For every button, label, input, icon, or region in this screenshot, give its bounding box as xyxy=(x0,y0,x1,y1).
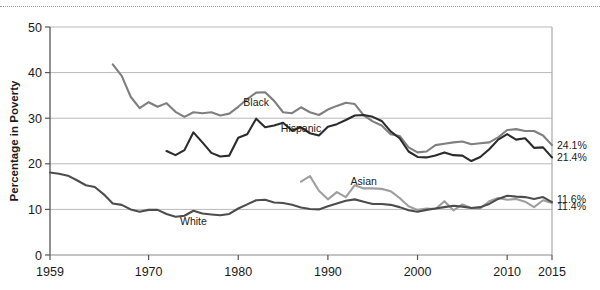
x-tick-label-1970: 1970 xyxy=(135,265,163,279)
y-tick-label-20: 20 xyxy=(28,157,42,171)
x-tick-label-1980: 1980 xyxy=(224,265,252,279)
y-tick-label-10: 10 xyxy=(28,203,42,217)
y-tick-label-0: 0 xyxy=(35,249,42,263)
series-label-asian: Asian xyxy=(351,175,377,187)
x-tick-label-2010: 2010 xyxy=(493,265,521,279)
series-label-white: White xyxy=(180,215,207,227)
end-value-label-black: 24.1% xyxy=(557,139,587,151)
x-tick-label-1990: 1990 xyxy=(314,265,342,279)
x-tick-label-2000: 2000 xyxy=(404,265,432,279)
series-line-black xyxy=(113,64,552,152)
chart-canvas: 010203040501959197019801990200020102015P… xyxy=(0,0,600,290)
y-tick-label-50: 50 xyxy=(28,21,42,35)
y-tick-label-30: 30 xyxy=(28,112,42,126)
series-label-black: Black xyxy=(243,96,269,108)
series-line-hispanic xyxy=(167,115,552,161)
y-tick-label-40: 40 xyxy=(28,66,42,80)
y-axis-title: Percentage in Poverty xyxy=(8,80,20,201)
poverty-rate-line-chart: 010203040501959197019801990200020102015P… xyxy=(0,0,600,290)
x-tick-label-1959: 1959 xyxy=(36,265,64,279)
end-value-label-white: 11.6% xyxy=(557,193,586,205)
series-label-hispanic: Hispanic xyxy=(281,122,321,134)
series-line-white xyxy=(50,172,552,216)
x-tick-label-2015: 2015 xyxy=(538,265,566,279)
end-value-label-hispanic: 21.4% xyxy=(557,151,587,163)
series-line-asian xyxy=(301,176,552,210)
